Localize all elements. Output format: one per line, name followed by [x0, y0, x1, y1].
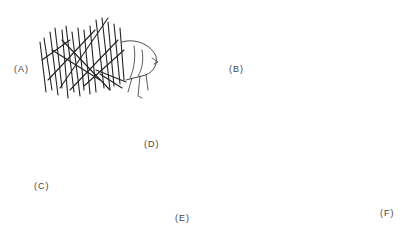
panel-label-b: (B): [229, 64, 244, 74]
larvae-illustration: [0, 0, 410, 240]
panel-label-d: (D): [144, 139, 160, 149]
panel-label-f: (F): [380, 208, 395, 218]
panel-label-e: (E): [175, 213, 190, 223]
panel-label-a: (A): [14, 64, 29, 74]
panel-label-c: (C): [34, 181, 50, 191]
specimen-a: [40, 18, 158, 98]
